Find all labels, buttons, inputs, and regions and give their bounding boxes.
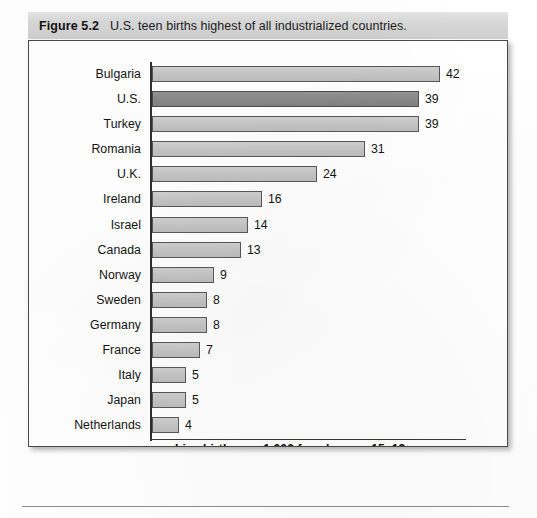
bar-value-label: 39 [425, 112, 439, 137]
page-bottom-rule [22, 506, 509, 507]
bar [152, 91, 419, 107]
bar-value-label: 16 [268, 187, 282, 212]
bar-value-label: 13 [247, 238, 261, 263]
bar-category-label: U.S. [117, 87, 148, 112]
bar-category-label: Ireland [103, 187, 148, 212]
bar-value-label: 24 [323, 162, 337, 187]
bar-category-label: Israel [111, 213, 148, 238]
bar-row: Germany8 [29, 313, 507, 338]
bar [152, 191, 262, 207]
figure-number-label: Figure 5.2 [39, 19, 99, 33]
bar-value-label: 39 [425, 87, 439, 112]
bar-category-label: Sweden [96, 288, 148, 313]
bar-value-label: 7 [206, 338, 213, 363]
bar [152, 116, 419, 132]
bar-row: Romania31 [29, 137, 507, 162]
bar [152, 66, 440, 82]
bar-chart-plot-area: Bulgaria42U.S.39Turkey39Romania31U.K.24I… [29, 41, 507, 446]
bar-row: Netherlands4 [29, 413, 507, 438]
bar-value-label: 9 [220, 263, 227, 288]
bar-value-label: 42 [446, 62, 460, 87]
bar-row: Bulgaria42 [29, 62, 507, 87]
bar-category-label: Japan [107, 388, 148, 413]
bar-value-label: 8 [213, 313, 220, 338]
bar-value-label: 14 [254, 213, 268, 238]
bar-value-label: 4 [185, 413, 192, 438]
bar-category-label: Germany [90, 313, 148, 338]
bar-category-label: Netherlands [74, 413, 148, 438]
bar [152, 267, 214, 283]
bar-row: Japan5 [29, 388, 507, 413]
bar-value-label: 5 [192, 363, 199, 388]
bar-row: Turkey39 [29, 112, 507, 137]
figure-caption-text: U.S. teen births highest of all industri… [110, 19, 407, 33]
bar-row: Israel14 [29, 213, 507, 238]
x-axis-title: Live births per 1,000 females age 15–19 … [150, 442, 466, 447]
bar [152, 317, 207, 333]
bar-row: France7 [29, 338, 507, 363]
bar-row: Canada13 [29, 238, 507, 263]
bar-row: Sweden8 [29, 288, 507, 313]
bar [152, 292, 207, 308]
bar-row: Ireland16 [29, 187, 507, 212]
bar [152, 367, 186, 383]
bar-category-label: Turkey [104, 112, 148, 137]
x-axis-line [150, 439, 466, 440]
bar-category-label: U.K. [117, 162, 148, 187]
bar-category-label: Romania [91, 137, 148, 162]
bar-rows-container: Bulgaria42U.S.39Turkey39Romania31U.K.24I… [29, 62, 507, 438]
chart-frame: Bulgaria42U.S.39Turkey39Romania31U.K.24I… [28, 40, 508, 447]
bar-category-label: Canada [98, 238, 148, 263]
bar-value-label: 5 [192, 388, 199, 413]
figure-caption-band: Figure 5.2 U.S. teen births highest of a… [28, 12, 508, 39]
bar-category-label: France [102, 338, 148, 363]
bar [152, 217, 248, 233]
bar-category-label: Italy [118, 363, 148, 388]
bar-value-label: 31 [371, 137, 385, 162]
bar [152, 342, 200, 358]
bar [152, 166, 317, 182]
bar-row: Italy5 [29, 363, 507, 388]
bar [152, 417, 179, 433]
bar [152, 141, 365, 157]
bar-category-label: Norway [99, 263, 148, 288]
bar-row: U.K.24 [29, 162, 507, 187]
bar-value-label: 8 [213, 288, 220, 313]
bar-category-label: Bulgaria [95, 62, 148, 87]
bar [152, 392, 186, 408]
bar-row: U.S.39 [29, 87, 507, 112]
bar-row: Norway9 [29, 263, 507, 288]
bar [152, 242, 241, 258]
